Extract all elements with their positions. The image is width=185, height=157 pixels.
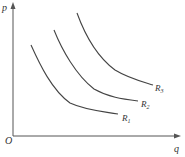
y-axis — [11, 2, 16, 136]
curve-r1 — [31, 45, 118, 114]
x-axis — [13, 134, 181, 139]
y-axis-label: p — [1, 2, 7, 13]
curve-label-r2: R2 — [140, 99, 150, 110]
svg-text:R2: R2 — [140, 99, 150, 110]
diagram-canvas: p q O R1 R2 R3 — [0, 0, 185, 157]
curve-r3 — [77, 13, 153, 85]
x-axis-arrow-icon — [174, 134, 181, 139]
svg-text:R1: R1 — [121, 113, 131, 124]
x-axis-label: q — [174, 143, 179, 154]
y-axis-arrow-icon — [11, 2, 16, 9]
svg-text:R3: R3 — [154, 83, 164, 94]
origin-label: O — [5, 135, 12, 146]
curve-label-r1: R1 — [121, 113, 131, 124]
curve-label-r3: R3 — [154, 83, 164, 94]
curve-r2 — [54, 30, 138, 101]
